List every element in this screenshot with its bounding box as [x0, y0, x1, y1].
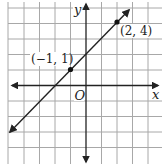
x-axis-label: x	[152, 87, 160, 102]
point-b-label: (2, 4)	[120, 24, 152, 38]
coordinate-plane: (−1, 1) (2, 4) y x O	[0, 0, 162, 164]
point-a	[68, 67, 73, 72]
y-axis-label: y	[73, 2, 82, 17]
origin-label: O	[75, 88, 86, 103]
point-b	[114, 19, 119, 24]
point-a-label: (−1, 1)	[31, 52, 73, 66]
